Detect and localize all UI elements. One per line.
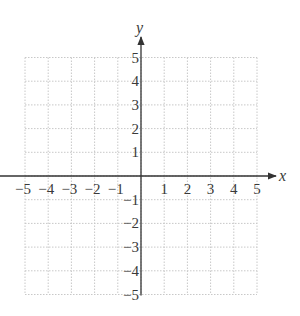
coordinate-plane: x y −5−4−3−2−112345 −5−4−3−2−112345 [0, 0, 300, 316]
x-tick-label: −2 [85, 181, 101, 197]
x-tick-label: 4 [230, 181, 238, 197]
x-tick-label: −1 [108, 181, 124, 197]
y-tick-label: −5 [123, 287, 139, 303]
x-tick-label: −3 [61, 181, 77, 197]
y-tick-label: 4 [132, 73, 140, 89]
x-tick-label: 2 [184, 181, 192, 197]
y-axis-label: y [134, 19, 144, 37]
x-tick-label: −5 [15, 181, 31, 197]
x-tick-label: 3 [207, 181, 215, 197]
x-tick-label: 5 [253, 181, 261, 197]
x-tick-label: 1 [160, 181, 168, 197]
y-tick-label: 5 [132, 50, 140, 66]
y-tick-label: −3 [123, 239, 139, 255]
y-tick-label: −4 [123, 263, 139, 279]
x-axis-label: x [278, 167, 286, 184]
y-tick-label: −1 [123, 192, 139, 208]
y-tick-label: 1 [132, 144, 140, 160]
y-tick-label: 3 [132, 97, 140, 113]
y-tick-label: 2 [132, 121, 140, 137]
x-tick-label: −4 [38, 181, 54, 197]
axes: x y [0, 19, 286, 296]
y-tick-label: −2 [123, 215, 139, 231]
